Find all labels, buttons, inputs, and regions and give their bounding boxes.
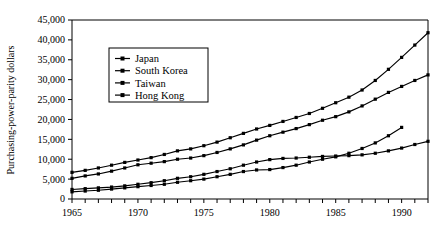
legend-marker	[121, 93, 125, 97]
series-point	[150, 181, 153, 184]
series-point	[387, 68, 390, 71]
series-point	[70, 171, 73, 174]
line-chart: Purchasing-power-parity dollars 05,00010…	[0, 0, 446, 236]
series-point	[360, 104, 363, 107]
series-point	[268, 158, 271, 161]
series-line	[72, 127, 402, 191]
series-point	[176, 181, 179, 184]
series-point	[387, 134, 390, 137]
series-line	[72, 141, 428, 189]
legend-label: Hong Kong	[135, 90, 185, 101]
series-point	[400, 146, 403, 149]
series-point	[400, 56, 403, 59]
series-point	[202, 144, 205, 147]
legend-marker	[121, 69, 125, 73]
series-point	[202, 173, 205, 176]
series-point	[242, 170, 245, 173]
series-point	[163, 160, 166, 163]
y-tick-label: 35,000	[38, 54, 66, 65]
series-point	[321, 107, 324, 110]
series-point	[176, 158, 179, 161]
y-tick-label: 25,000	[38, 94, 66, 105]
legend-label: South Korea	[135, 65, 188, 76]
series-point	[97, 186, 100, 189]
series-point	[136, 183, 139, 186]
series-point	[255, 127, 258, 130]
series-point	[321, 155, 324, 158]
series-point	[308, 156, 311, 159]
series-point	[97, 166, 100, 169]
series-point	[215, 175, 218, 178]
series-point	[387, 149, 390, 152]
y-tick-label: 0	[60, 193, 65, 204]
series-point	[242, 132, 245, 135]
y-tick-label: 5,000	[43, 174, 66, 185]
series-point	[413, 43, 416, 46]
series-point	[242, 164, 245, 167]
series-point	[281, 166, 284, 169]
legend-label: Taiwan	[135, 78, 167, 89]
series-point	[150, 156, 153, 159]
y-tick-label: 10,000	[38, 154, 66, 165]
series-point	[123, 161, 126, 164]
series-point	[70, 177, 73, 180]
series-point	[84, 169, 87, 172]
series-point	[374, 98, 377, 101]
series-point	[347, 110, 350, 113]
series-point	[255, 168, 258, 171]
series-point	[295, 127, 298, 130]
series-point	[334, 154, 337, 157]
series-point	[189, 175, 192, 178]
series-point	[123, 184, 126, 187]
series-point	[347, 154, 350, 157]
series-point	[281, 131, 284, 134]
series-point	[189, 156, 192, 159]
series-point	[215, 170, 218, 173]
series-point	[215, 151, 218, 154]
series-point	[308, 160, 311, 163]
x-tick-label: 1990	[392, 207, 412, 218]
series-point	[268, 124, 271, 127]
series-point	[321, 119, 324, 122]
series-point	[255, 160, 258, 163]
y-axis-tick-labels: 05,00010,00015,00020,00025,00030,00035,0…	[38, 14, 66, 204]
series-point	[150, 184, 153, 187]
series-point	[229, 136, 232, 139]
series-point	[295, 116, 298, 119]
y-tick-label: 45,000	[38, 14, 66, 25]
series-point	[281, 120, 284, 123]
series-point	[426, 31, 429, 34]
series-point	[334, 101, 337, 104]
series-point	[229, 167, 232, 170]
series-point	[163, 179, 166, 182]
series-point	[360, 147, 363, 150]
series-taiwan	[70, 140, 429, 191]
series-point	[215, 141, 218, 144]
y-axis-title: Purchasing-power-parity dollars	[5, 45, 16, 174]
series-point	[334, 115, 337, 118]
series-point	[321, 158, 324, 161]
series-point	[176, 177, 179, 180]
series-point	[360, 88, 363, 91]
series-point	[308, 123, 311, 126]
series-point	[229, 173, 232, 176]
series-point	[136, 158, 139, 161]
series-point	[374, 141, 377, 144]
y-tick-label: 20,000	[38, 114, 66, 125]
x-tick-label: 1975	[194, 207, 214, 218]
series-point	[281, 157, 284, 160]
x-tick-label: 1970	[128, 207, 148, 218]
legend-marker	[121, 57, 125, 61]
series-point	[400, 126, 403, 129]
series-point	[426, 73, 429, 76]
series-point	[413, 79, 416, 82]
series-point	[347, 96, 350, 99]
series-point	[255, 139, 258, 142]
series-point	[387, 91, 390, 94]
series-point	[189, 179, 192, 182]
x-tick-label: 1985	[326, 207, 346, 218]
series-point	[426, 140, 429, 143]
series-point	[229, 147, 232, 150]
series-point	[268, 134, 271, 137]
chart-container: Purchasing-power-parity dollars 05,00010…	[0, 0, 446, 236]
